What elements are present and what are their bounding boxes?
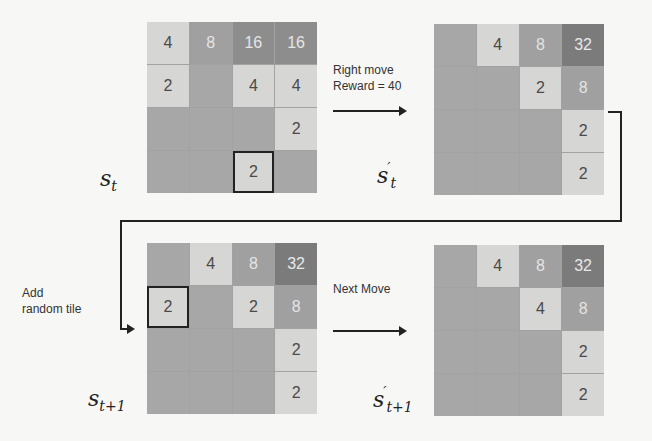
tile-2: 2 — [275, 329, 317, 371]
tile-8: 8 — [520, 245, 562, 287]
tile-4: 4 — [147, 22, 189, 64]
tile-empty — [520, 153, 562, 195]
tile-8: 8 — [562, 288, 604, 330]
label-s-t1-prime: s′t+1 — [373, 384, 413, 415]
connector-segment-horizontal — [120, 220, 622, 222]
tile-empty — [477, 67, 519, 109]
label-s-t-prime: s′t — [377, 160, 396, 191]
tile-empty — [233, 108, 275, 150]
tile-empty — [434, 374, 476, 416]
tile-empty — [434, 67, 476, 109]
tile-empty — [147, 108, 189, 150]
label-s-t: st — [100, 166, 117, 194]
tile-empty — [434, 153, 476, 195]
tile-8: 8 — [275, 286, 317, 328]
tile-empty — [190, 108, 232, 150]
tile-empty — [434, 331, 476, 373]
tile-empty — [477, 374, 519, 416]
tile-2: 2 — [147, 65, 189, 107]
tile-empty — [233, 329, 275, 371]
connector-segment-left — [120, 220, 122, 330]
tile-empty — [520, 374, 562, 416]
tile-16: 16 — [233, 22, 275, 64]
tile-2: 2 — [233, 286, 275, 328]
tile-empty — [434, 245, 476, 287]
board-s-t-prime: 48322822 — [434, 24, 604, 195]
tile-8: 8 — [520, 24, 562, 66]
caption-right-move: Right move Reward = 40 — [333, 62, 401, 94]
tile-empty — [434, 110, 476, 152]
tile-empty — [477, 110, 519, 152]
tile-empty — [190, 151, 232, 193]
connector-segment-right — [620, 111, 622, 222]
tile-2: 2 — [562, 110, 604, 152]
tile-empty — [190, 329, 232, 371]
tile-empty — [147, 151, 189, 193]
tile-empty — [477, 153, 519, 195]
tile-empty — [477, 331, 519, 373]
caption-next-move: Next Move — [333, 281, 390, 297]
tile-empty — [147, 243, 189, 285]
tile-empty — [477, 288, 519, 330]
tile-empty — [275, 151, 317, 193]
tile-2: 2 — [233, 151, 275, 193]
tile-4: 4 — [477, 24, 519, 66]
tile-32: 32 — [275, 243, 317, 285]
tile-4: 4 — [275, 65, 317, 107]
tile-32: 32 — [562, 24, 604, 66]
label-s-t1: st+1 — [88, 386, 126, 414]
tile-4: 4 — [477, 245, 519, 287]
tile-4: 4 — [190, 243, 232, 285]
arrow-add-tile-icon — [120, 328, 133, 330]
tile-2: 2 — [562, 374, 604, 416]
tile-4: 4 — [520, 288, 562, 330]
tile-8: 8 — [233, 243, 275, 285]
tile-empty — [190, 286, 232, 328]
arrow-next-move-icon — [333, 330, 405, 332]
tile-2: 2 — [562, 331, 604, 373]
tile-2: 2 — [275, 108, 317, 150]
board-s-t1-prime: 48324822 — [434, 245, 604, 416]
tile-empty — [147, 329, 189, 371]
tile-empty — [520, 331, 562, 373]
tile-empty — [190, 65, 232, 107]
tile-16: 16 — [275, 22, 317, 64]
tile-4: 4 — [233, 65, 275, 107]
tile-32: 32 — [562, 245, 604, 287]
tile-empty — [190, 372, 232, 414]
tile-2: 2 — [147, 286, 189, 328]
tile-empty — [434, 288, 476, 330]
tile-empty — [233, 372, 275, 414]
board-s-t1: 483222822 — [147, 243, 317, 414]
tile-empty — [434, 24, 476, 66]
tile-empty — [147, 372, 189, 414]
tile-2: 2 — [275, 372, 317, 414]
tile-2: 2 — [562, 153, 604, 195]
tile-2: 2 — [520, 67, 562, 109]
board-s-t: 48161624422 — [147, 22, 317, 193]
caption-add-random-tile: Add random tile — [22, 285, 81, 317]
tile-8: 8 — [190, 22, 232, 64]
tile-8: 8 — [562, 67, 604, 109]
arrow-right-move-icon — [333, 110, 405, 112]
tile-empty — [520, 110, 562, 152]
